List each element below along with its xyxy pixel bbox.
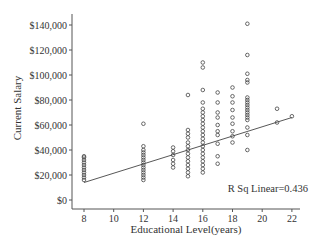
data-point — [201, 152, 205, 156]
data-point — [186, 174, 190, 178]
data-point — [186, 136, 190, 140]
x-axis-title: Educational Level(years) — [131, 223, 242, 236]
data-point — [201, 88, 205, 92]
y-tick-label: $60,000 — [35, 120, 68, 131]
data-point — [201, 114, 205, 118]
data-point — [216, 133, 220, 137]
y-tick-label: $100,000 — [30, 70, 68, 81]
data-point — [231, 141, 235, 145]
y-tick-label: $140,000 — [30, 20, 68, 31]
data-point — [246, 22, 250, 26]
data-point — [246, 72, 250, 76]
data-point — [142, 122, 146, 126]
data-point — [201, 129, 205, 133]
data-point — [216, 154, 220, 158]
data-point — [201, 171, 205, 175]
data-point — [231, 116, 235, 120]
y-tick-label: $80,000 — [35, 95, 68, 106]
data-point — [216, 116, 220, 120]
data-point — [201, 137, 205, 141]
x-tick-label: 10 — [109, 213, 119, 224]
data-point — [186, 171, 190, 175]
data-point — [142, 148, 146, 152]
data-point — [186, 141, 190, 145]
data-point — [246, 133, 250, 137]
r-squared-annotation: R Sq Linear=0.436 — [228, 183, 308, 194]
data-point — [186, 159, 190, 163]
data-point — [186, 163, 190, 167]
data-point — [201, 159, 205, 163]
y-tick-label: $20,000 — [35, 170, 68, 181]
data-point — [201, 122, 205, 126]
y-axis-ticks: $0$20,000$40,000$60,000$80,000$100,000$1… — [30, 20, 73, 206]
data-point — [186, 132, 190, 136]
x-tick-label: 8 — [82, 213, 87, 224]
data-point — [186, 152, 190, 156]
data-point — [201, 148, 205, 152]
data-point — [246, 126, 250, 130]
data-point — [231, 86, 235, 90]
data-point — [171, 162, 175, 166]
data-point — [216, 142, 220, 146]
data-point — [275, 107, 279, 111]
data-point — [216, 162, 220, 166]
data-point — [201, 107, 205, 111]
data-point — [201, 118, 205, 122]
x-tick-label: 20 — [257, 213, 267, 224]
data-point — [171, 146, 175, 150]
x-axis-ticks: 810121416182022 — [82, 209, 297, 224]
data-point — [231, 94, 235, 98]
data-points — [82, 22, 294, 182]
data-point — [201, 126, 205, 130]
data-point — [246, 148, 250, 152]
data-point — [201, 101, 205, 105]
data-point — [171, 166, 175, 170]
data-point — [216, 123, 220, 127]
data-point — [186, 144, 190, 148]
scatter-chart: $0$20,000$40,000$60,000$80,000$100,000$1… — [0, 0, 315, 249]
data-point — [216, 111, 220, 115]
data-point — [201, 66, 205, 70]
data-point — [246, 96, 250, 100]
data-point — [171, 149, 175, 153]
data-point — [186, 156, 190, 160]
data-point — [216, 129, 220, 133]
data-point — [186, 167, 190, 171]
data-point — [246, 53, 250, 57]
data-point — [186, 128, 190, 132]
data-point — [201, 111, 205, 115]
y-axis-title: Current Salary — [11, 75, 23, 140]
y-tick-label: $40,000 — [35, 145, 68, 156]
regression-line — [84, 118, 292, 183]
y-tick-label: $120,000 — [30, 45, 68, 56]
data-point — [201, 61, 205, 65]
data-point — [216, 101, 220, 105]
data-point — [171, 158, 175, 162]
data-point — [231, 108, 235, 112]
data-point — [186, 93, 190, 97]
data-point — [201, 156, 205, 160]
data-point — [201, 167, 205, 171]
data-point — [246, 78, 250, 82]
y-tick-label: $0 — [57, 195, 67, 206]
data-point — [231, 122, 235, 126]
x-tick-label: 22 — [287, 213, 297, 224]
data-point — [216, 91, 220, 95]
data-point — [201, 141, 205, 145]
data-point — [201, 163, 205, 167]
data-point — [142, 144, 146, 148]
data-point — [201, 133, 205, 137]
data-point — [231, 129, 235, 133]
data-point — [231, 101, 235, 105]
